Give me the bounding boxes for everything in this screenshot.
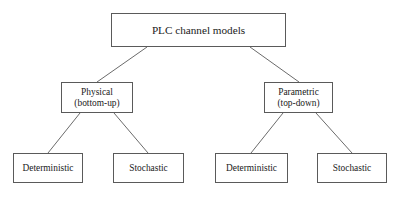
node-physical-deterministic[interactable]: Deterministic [13,153,83,183]
edge-parametric-to-stochastic [316,113,352,153]
node-parametric-stochastic[interactable]: Stochastic [317,153,387,183]
node-label-line-1: Parametric [278,87,319,98]
node-physical[interactable]: Physical (bottom-up) [61,82,133,113]
node-parametric[interactable]: Parametric (top-down) [264,82,333,113]
edge-physical-to-deterministic [48,113,80,153]
edge-root-to-physical [97,47,147,82]
node-physical-stochastic[interactable]: Stochastic [113,153,184,183]
node-label: PLC channel models [152,24,245,37]
edge-physical-to-stochastic [114,113,148,153]
edge-root-to-parametric [250,47,299,82]
node-label-line-1: Physical [81,87,113,98]
node-label: Stochastic [129,163,168,174]
node-plc-channel-models[interactable]: PLC channel models [111,13,286,47]
node-label: Stochastic [333,163,372,174]
diagram-canvas: PLC channel models Physical (bottom-up) … [0,0,403,197]
node-label-line-2: (top-down) [277,98,319,109]
node-label: Deterministic [226,163,277,174]
node-label: Deterministic [22,163,73,174]
node-parametric-deterministic[interactable]: Deterministic [215,153,288,183]
node-label-line-2: (bottom-up) [74,98,119,109]
edge-parametric-to-deterministic [251,113,283,153]
